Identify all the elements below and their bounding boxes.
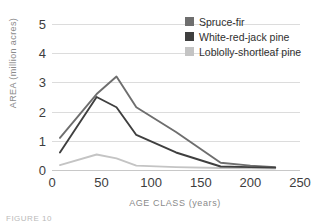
series-line	[60, 97, 275, 168]
y-tick-label: 5	[39, 17, 46, 32]
legend-swatch-icon	[185, 47, 194, 56]
y-tick-label: 4	[39, 46, 46, 61]
figure-caption: FIGURE 10	[6, 214, 52, 223]
y-tick-label: 1	[39, 133, 46, 148]
x-tick-label: 50	[94, 175, 108, 190]
legend-label: Spruce-fir	[199, 16, 245, 28]
legend-swatch-icon	[185, 32, 194, 41]
y-axis-title-text: AREA (million acres)	[8, 18, 18, 109]
legend-label: Loblolly-shortleaf pine	[199, 46, 301, 58]
x-axis-title: AGE CLASS (years)	[50, 198, 300, 208]
y-tick-label: 0	[39, 163, 46, 178]
x-tick-label: 250	[289, 175, 311, 190]
x-tick-label: 150	[190, 175, 212, 190]
x-tick-label: 100	[140, 175, 162, 190]
y-axis-title: AREA (million acres)	[8, 0, 18, 138]
legend-item[interactable]: Loblolly-shortleaf pine	[185, 44, 301, 59]
legend-item[interactable]: White-red-jack pine	[185, 29, 301, 44]
chart-figure: AREA (million acres) 012345 050100150200…	[0, 0, 314, 224]
y-tick-label: 3	[39, 75, 46, 90]
legend-label: White-red-jack pine	[199, 31, 289, 43]
x-axis-title-text: AGE CLASS (years)	[129, 198, 221, 208]
x-tick-label: 0	[48, 175, 55, 190]
x-tick-label: 200	[240, 175, 262, 190]
legend-swatch-icon	[185, 17, 194, 26]
chart-legend: Spruce-firWhite-red-jack pineLoblolly-sh…	[185, 14, 301, 59]
legend-item[interactable]: Spruce-fir	[185, 14, 301, 29]
series-line	[60, 77, 275, 168]
x-axis-line	[52, 170, 300, 171]
y-tick-label: 2	[39, 104, 46, 119]
